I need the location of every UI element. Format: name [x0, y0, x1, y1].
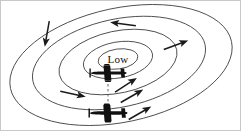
wind-arrow-top [110, 19, 137, 30]
aircraft-lower [88, 104, 127, 123]
figure-frame: Low [0, 0, 241, 131]
low-pressure-diagram: Low [1, 1, 241, 131]
wind-arrow-bottom-right [127, 103, 153, 122]
pressure-center-label: Low [108, 53, 129, 65]
wind-arrow-right [163, 37, 190, 53]
wind-arrow-group [41, 19, 189, 123]
wind-arrow-upper-left [41, 21, 53, 48]
